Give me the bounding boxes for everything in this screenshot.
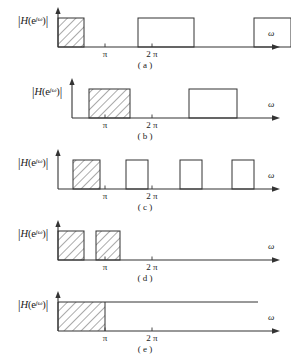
tick-label-pi-b: π [95, 120, 115, 130]
panel-e: |H(ejω)| ω π 2 π ( e ) [0, 284, 291, 354]
caption-b: ( b ) [125, 131, 165, 141]
figure-magnitude-responses: |H(ejω)| ω π 2 π ( a ) [0, 0, 291, 364]
tick-label-pi-e: π [95, 333, 115, 343]
tick-label-pi-c: π [95, 191, 115, 201]
panel-a: |H(ejω)| ω π 2 π ( a ) [0, 0, 291, 70]
y-axis-label-a: |H(ejω)| [18, 15, 48, 28]
panel-d: |H(ejω)| ω π 2 π ( d ) [0, 213, 291, 283]
caption-a: ( a ) [125, 60, 165, 70]
tick-label-2pi-d: 2 π [140, 262, 164, 272]
caption-d: ( d ) [125, 273, 165, 283]
tick-label-pi-d: π [95, 262, 115, 272]
x-axis-label-c: ω [268, 170, 274, 180]
caption-c: ( c ) [125, 202, 165, 212]
tick-label-2pi-a: 2 π [140, 49, 164, 59]
tick-label-2pi-b: 2 π [140, 120, 164, 130]
y-axis-label-c: |H(ejω)| [18, 157, 48, 170]
panel-b: |H(ejω)| ω π 2 π ( b ) [0, 71, 291, 141]
x-axis-label-b: ω [268, 99, 274, 109]
tick-label-pi-a: π [95, 49, 115, 59]
y-axis-label-b: |H(ejω)| [32, 86, 62, 99]
tick-label-2pi-c: 2 π [140, 191, 164, 201]
panel-c: |H(ejω)| ω π 2 π ( c ) [0, 142, 291, 212]
y-axis-label-e: |H(ejω)| [18, 299, 48, 312]
x-axis-label-a: ω [268, 28, 274, 38]
caption-e: ( e ) [125, 344, 165, 354]
x-axis-label-e: ω [268, 312, 274, 322]
y-axis-label-d: |H(ejω)| [18, 228, 48, 241]
x-axis-label-d: ω [268, 241, 274, 251]
tick-label-2pi-e: 2 π [140, 333, 164, 343]
